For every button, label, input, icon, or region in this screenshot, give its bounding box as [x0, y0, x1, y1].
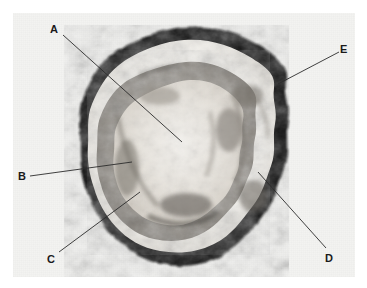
specimen-image: [0, 0, 367, 288]
figure-root: A B C D E: [0, 0, 367, 288]
